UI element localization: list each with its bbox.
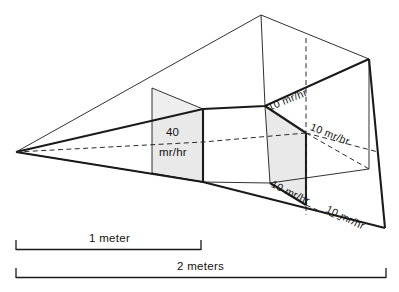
radiation-dose-diagram: 40 mr/hr 10 mr/hr 10 mr/hr 10 mr/hr 10 m… xyxy=(0,0,399,292)
top-apex-to-right-top-edge xyxy=(261,15,369,59)
diagram-canvas xyxy=(0,0,399,292)
top-apex-vertical-edge xyxy=(261,15,265,106)
one-meter-scale-label: 1 meter xyxy=(89,232,130,244)
apex-to-top-apex-edge xyxy=(16,15,261,152)
two-meters-scale-label: 2 meters xyxy=(177,260,224,272)
right-outer-vertical-edge xyxy=(369,59,385,228)
near-panel-dose-value: 40 xyxy=(166,126,179,138)
near-panel-dose-unit: mr/hr xyxy=(159,146,187,158)
